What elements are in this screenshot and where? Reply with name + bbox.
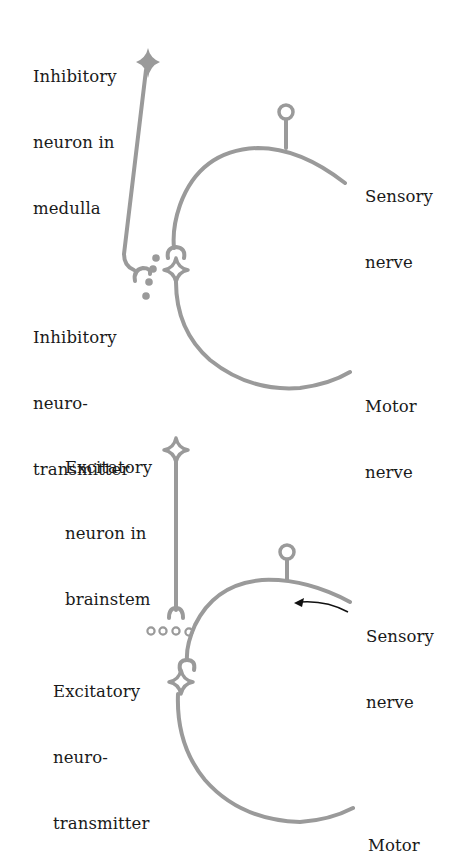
sensory-nerve-label: Sensory nerve — [365, 142, 433, 296]
sensory-nerve-arc-2 — [187, 580, 350, 660]
sensory-nerve-arc — [174, 148, 345, 248]
motor-nerve-label: Motor nerve — [365, 352, 417, 506]
excitatory-terminal-icon — [169, 608, 183, 618]
receptor-icon — [279, 105, 293, 119]
inhibitory-transmitter-dots — [142, 254, 160, 300]
inhibitory-neuron-icon — [136, 48, 160, 78]
motor-nerve-arc-2 — [178, 694, 353, 822]
inhibitory-panel — [124, 70, 350, 388]
excitatory-transmitter-circles — [147, 627, 192, 635]
motor-neuron-icon-2 — [169, 670, 193, 694]
inhibitory-neuron-label: Inhibitory neuron in medulla — [33, 22, 117, 242]
excitatory-transmitter-label: Excitatory neuro- transmitter — [53, 637, 149, 857]
inhibitory-axon — [124, 70, 146, 270]
receptor-icon-2 — [280, 545, 294, 559]
excitatory-neuron-icon — [164, 438, 188, 462]
signal-direction-arrow — [294, 598, 348, 612]
motor-neuron-icon — [164, 258, 188, 282]
arrowhead-icon — [294, 598, 304, 607]
sensory-nerve-label-2: Sensory nerve — [366, 582, 434, 736]
motor-nerve-arc — [176, 282, 350, 388]
excitatory-neuron-label: Excitatory neuron in brainstem — [65, 413, 152, 633]
motor-nerve-label-2: Motor nerve — [368, 791, 420, 864]
